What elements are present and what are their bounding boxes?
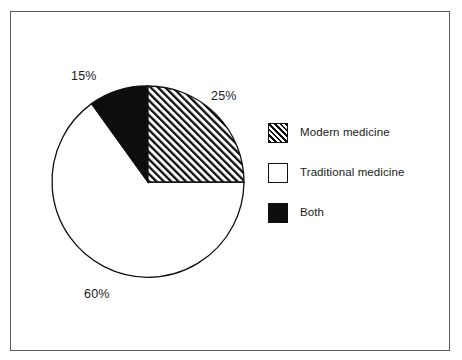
chart-legend: Modern medicine Traditional medicine Bot…: [268, 123, 438, 243]
legend-swatch-hatched-icon: [268, 123, 288, 143]
legend-label-both: Both: [300, 206, 324, 218]
legend-label-modern-medicine: Modern medicine: [300, 126, 390, 138]
legend-swatch-white-icon: [268, 163, 288, 183]
pie-label-modern-medicine-percent: 25%: [211, 89, 237, 103]
pie-chart: [40, 74, 256, 290]
legend-item-both: Both: [268, 203, 438, 243]
legend-swatch-black-icon: [268, 203, 288, 223]
chart-figure: 15% 25% 60% Modern medicine Traditional …: [0, 0, 462, 360]
legend-item-modern-medicine: Modern medicine: [268, 123, 438, 163]
pie-label-both-percent: 15%: [71, 69, 97, 83]
pie-label-traditional-medicine-percent: 60%: [84, 287, 110, 301]
legend-label-traditional-medicine: Traditional medicine: [300, 166, 404, 178]
legend-item-traditional-medicine: Traditional medicine: [268, 163, 438, 203]
